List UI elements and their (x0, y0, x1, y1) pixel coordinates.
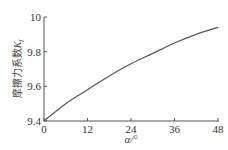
line-chart: 012243648 9.49.69.810 α/° 摩擦力系数Kf (0, 0, 228, 150)
y-tick-label: 9.4 (27, 115, 41, 127)
y-tick-label: 10 (30, 11, 42, 23)
svg-text:摩擦力系数Kf: 摩擦力系数Kf (11, 39, 25, 99)
y-axis-label: 摩擦力系数Kf (11, 39, 25, 99)
x-tick-label: 0 (41, 123, 47, 135)
y-axis-label-subscript: f (17, 39, 25, 42)
y-tick-label: 9.8 (27, 46, 41, 58)
axes (44, 17, 219, 121)
y-tick-label: 9.6 (27, 80, 41, 92)
x-tick-label: 36 (169, 123, 181, 135)
friction-coefficient-curve (44, 27, 218, 121)
x-tick-label: 48 (213, 123, 225, 135)
y-axis-label-main: 摩擦力系数 (11, 48, 23, 98)
x-axis-label: α/° (124, 133, 138, 145)
x-tick-label: 12 (82, 123, 93, 135)
